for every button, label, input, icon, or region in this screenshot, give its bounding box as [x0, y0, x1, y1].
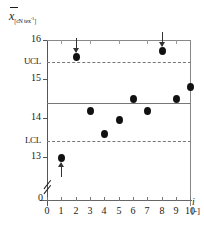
y-tick-label-16: 16 [11, 33, 41, 44]
x-tick-0 [47, 197, 48, 201]
x-tick-label-4: 4 [96, 205, 112, 216]
x-tick-2 [76, 197, 77, 201]
center-line [47, 103, 191, 104]
top-tick-7 [147, 40, 148, 44]
x-tick-4 [104, 197, 105, 201]
arrow-point-8 [162, 32, 163, 46]
top-tick-3 [90, 40, 91, 44]
x-tick-10 [190, 197, 191, 201]
y-tick-15 [43, 79, 47, 80]
lcl-line [47, 141, 191, 142]
y-tick-16 [43, 40, 47, 41]
data-point-3 [87, 107, 94, 115]
x-tick-9 [176, 197, 177, 201]
x-tick-7 [147, 197, 148, 201]
arrow-point-1 [61, 163, 62, 177]
x-axis-line [40, 200, 192, 201]
y-axis-unit: [cN tex-1] [14, 18, 36, 24]
data-point-9 [173, 95, 180, 103]
y-tick-label-15: 15 [11, 72, 41, 83]
y-tick-label-13: 13 [11, 150, 41, 161]
ucl-line [47, 62, 191, 63]
top-tick-5 [119, 40, 120, 44]
data-point-7 [144, 107, 151, 115]
x-tick-8 [162, 197, 163, 201]
y-axis-label: x[cN tex-1] [9, 6, 36, 24]
arrow-point-2 [76, 38, 77, 52]
x-tick-label-1: 1 [53, 205, 69, 216]
plot-right-border [190, 40, 191, 206]
x-tick-3 [90, 197, 91, 201]
y-tick-label-0: 0 [13, 192, 43, 203]
data-point-10 [187, 83, 194, 91]
top-tick-1 [61, 40, 62, 44]
lcl-label: LCL [9, 135, 41, 145]
y-tick-13 [43, 157, 47, 158]
x-tick-6 [133, 197, 134, 201]
data-point-5 [116, 116, 123, 124]
y-tick-14 [43, 118, 47, 119]
ucl-label: UCL [9, 56, 41, 66]
data-point-6 [130, 95, 137, 103]
y-tick-label-14: 14 [11, 111, 41, 122]
control-chart: x[cN tex-1] 16 15 14 13 0 UCL LCL 0 1 2 … [0, 0, 204, 225]
data-point-1 [58, 154, 65, 162]
y-axis-symbol: x [9, 9, 14, 23]
x-tick-1 [61, 197, 62, 201]
data-point-2 [73, 53, 80, 61]
x-tick-label-7: 7 [139, 205, 155, 216]
data-point-8 [159, 47, 166, 55]
x-tick-5 [119, 197, 120, 201]
top-tick-9 [176, 40, 177, 44]
x-axis-unit: [-] [191, 206, 200, 216]
data-point-4 [101, 130, 108, 138]
